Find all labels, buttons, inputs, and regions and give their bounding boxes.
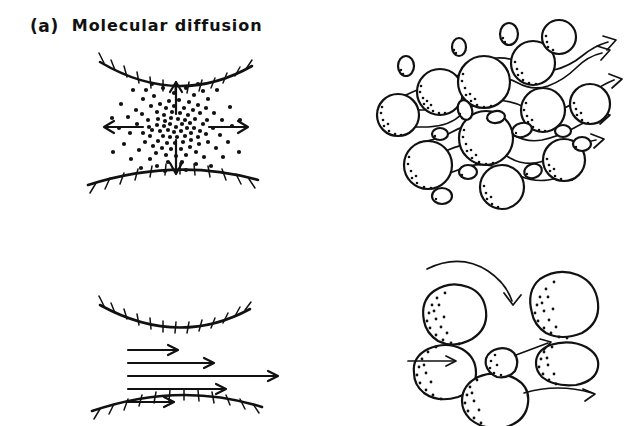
velocity-arrow-1 — [128, 345, 178, 355]
panel-b-tortuosity: (b) Tortuosity of flow paths — [320, 0, 631, 213]
velocity-between-pores-art — [320, 213, 631, 426]
bottom-long-arrow — [524, 388, 595, 401]
grain — [542, 20, 576, 54]
arrow-right — [209, 121, 248, 133]
grain — [452, 38, 466, 56]
grain — [500, 23, 518, 45]
grain — [459, 165, 477, 179]
grain — [511, 121, 534, 139]
grain — [404, 141, 452, 189]
molecular-diffusion-art — [0, 0, 320, 213]
porous-grains — [377, 20, 610, 209]
grain — [573, 137, 591, 151]
tortuosity-art — [320, 0, 631, 213]
grain — [570, 84, 610, 124]
panel-d-velocity-between-pores: (d) Velocity variationsbetween pores — [320, 213, 631, 426]
grain — [432, 128, 448, 140]
velocity-arrow-2 — [128, 358, 214, 368]
grain — [432, 188, 452, 204]
grain — [398, 56, 414, 76]
velocity-arrow-4 — [128, 384, 226, 394]
grain — [480, 165, 524, 209]
grain — [417, 69, 463, 115]
dispersion-mechanisms-figure: (a) Molecular diffusion — [0, 0, 631, 426]
velocity-arrow-3 — [128, 371, 278, 381]
upper-pore-wall — [99, 296, 251, 333]
panel-a-molecular-diffusion: (a) Molecular diffusion — [0, 0, 320, 213]
grain-upper-right — [530, 272, 598, 340]
lower-pore-wall — [92, 389, 262, 419]
panel-c-velocity-within-pore: (c) Velocity variationswithin a pore — [0, 213, 320, 426]
grain-center-small — [486, 348, 518, 377]
grain-upper-left — [423, 284, 486, 345]
grain — [377, 94, 419, 136]
velocity-within-pore-art — [0, 213, 320, 426]
grain-bottom — [462, 373, 528, 426]
grain — [555, 125, 571, 137]
